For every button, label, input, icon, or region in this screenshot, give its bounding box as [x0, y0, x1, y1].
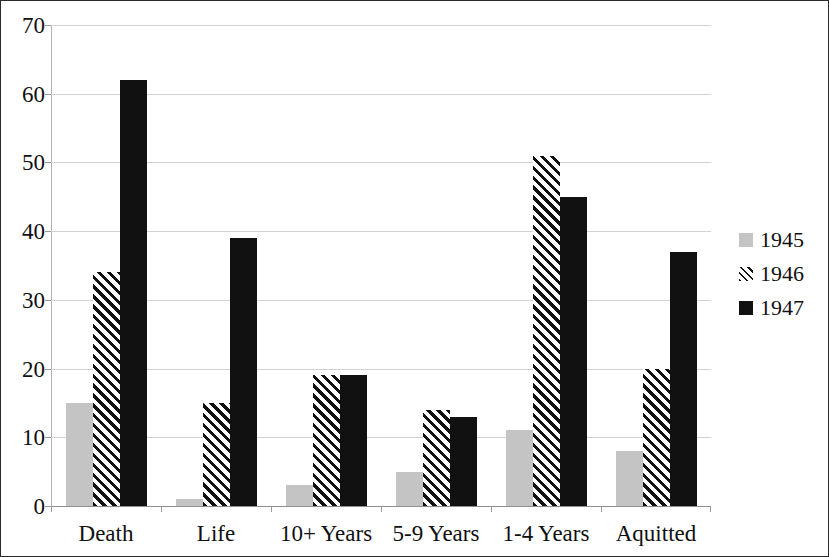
- bar[interactable]: [450, 417, 477, 506]
- bar[interactable]: [176, 499, 203, 506]
- bar-group: [381, 25, 491, 506]
- category-tick-mark: [710, 506, 711, 512]
- legend-swatch-icon: [739, 233, 753, 247]
- bar[interactable]: [286, 485, 313, 506]
- bar[interactable]: [313, 375, 340, 506]
- bar[interactable]: [203, 403, 230, 506]
- bar[interactable]: [340, 375, 367, 506]
- y-tick-label: 50: [1, 151, 45, 174]
- legend-swatch-icon: [739, 267, 753, 281]
- category-tick-mark: [161, 506, 162, 512]
- legend-swatch-icon: [739, 301, 753, 315]
- bar[interactable]: [670, 252, 697, 506]
- legend-label: 1945: [760, 229, 804, 251]
- bar-group: [51, 25, 161, 506]
- bar-group: [271, 25, 381, 506]
- bar[interactable]: [506, 430, 533, 506]
- bar-group-bars: [601, 25, 711, 506]
- x-tick-label: Aquitted: [601, 517, 711, 551]
- legend-item-1946[interactable]: 1946: [739, 257, 824, 291]
- bar[interactable]: [643, 369, 670, 506]
- category-tick-mark: [601, 506, 602, 512]
- y-tick-label: 40: [1, 220, 45, 243]
- legend-item-1947[interactable]: 1947: [739, 291, 824, 325]
- bar[interactable]: [396, 472, 423, 506]
- x-axis-tick-labels: DeathLife10+ Years5-9 Years1-4 YearsAqui…: [51, 517, 711, 551]
- plot-area: [51, 25, 711, 506]
- bar[interactable]: [120, 80, 147, 506]
- bar-group-bars: [51, 25, 161, 506]
- legend-label: 1946: [760, 263, 804, 285]
- bar[interactable]: [66, 403, 93, 506]
- bar[interactable]: [560, 197, 587, 506]
- category-tick-mark: [271, 506, 272, 512]
- y-tick-label: 10: [1, 426, 45, 449]
- y-tick-label: 30: [1, 288, 45, 311]
- bar[interactable]: [616, 451, 643, 506]
- y-tick-label: 60: [1, 82, 45, 105]
- bar-group: [601, 25, 711, 506]
- legend: 194519461947: [739, 223, 824, 325]
- x-tick-label: 5-9 Years: [381, 517, 491, 551]
- x-tick-label: Life: [161, 517, 271, 551]
- x-tick-label: 10+ Years: [271, 517, 381, 551]
- bar-group: [491, 25, 601, 506]
- bar[interactable]: [533, 156, 560, 506]
- bar-group-bars: [491, 25, 601, 506]
- x-tick-label: 1-4 Years: [491, 517, 601, 551]
- legend-label: 1947: [760, 297, 804, 319]
- bar-group-bars: [381, 25, 491, 506]
- category-tick-mark: [491, 506, 492, 512]
- y-tick-label: 0: [1, 495, 45, 518]
- bar[interactable]: [93, 272, 120, 506]
- legend-item-1945[interactable]: 1945: [739, 223, 824, 257]
- bar-chart-figure: 010203040506070 DeathLife10+ Years5-9 Ye…: [0, 0, 829, 557]
- y-tick-label: 70: [1, 14, 45, 37]
- category-tick-mark: [51, 506, 52, 512]
- bar-group-bars: [161, 25, 271, 506]
- y-axis-tick-labels: 010203040506070: [1, 25, 45, 506]
- bar-group-bars: [271, 25, 381, 506]
- category-tick-mark: [381, 506, 382, 512]
- x-tick-label: Death: [51, 517, 161, 551]
- y-tick-label: 20: [1, 357, 45, 380]
- bar[interactable]: [230, 238, 257, 506]
- bar[interactable]: [423, 410, 450, 506]
- bar-group: [161, 25, 271, 506]
